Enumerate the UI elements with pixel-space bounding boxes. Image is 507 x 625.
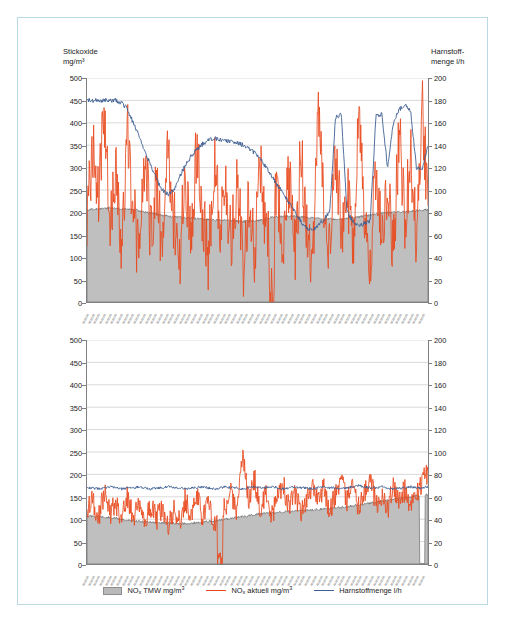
y-tick-left: 200 xyxy=(52,471,82,480)
y-tickmark-left xyxy=(82,168,86,169)
y-tickmark-right xyxy=(428,408,432,409)
y-tick-right: 60 xyxy=(434,231,464,240)
y-tickmark-right xyxy=(428,191,432,192)
y-tickmark-right xyxy=(428,453,432,454)
y-tickmark-left xyxy=(82,258,86,259)
y-tick-left: 150 xyxy=(52,493,82,502)
y-tickmark-right xyxy=(428,168,432,169)
y-tick-left: 250 xyxy=(52,186,82,195)
y-tick-left: 200 xyxy=(52,209,82,218)
y-tickmark-right xyxy=(428,281,432,282)
x-axis-labels: 00.00.0000.00.0000.00.0000.00.0000.00.00… xyxy=(86,304,428,328)
y-tickmark-right xyxy=(428,475,432,476)
y-tick-right: 120 xyxy=(434,164,464,173)
y-tickmark-left xyxy=(82,475,86,476)
chart-top: 5004504003503002502001501005002001801601… xyxy=(86,78,428,303)
y-tickmark-left xyxy=(82,498,86,499)
y-tick-right: 40 xyxy=(434,254,464,263)
y-tick-right: 100 xyxy=(434,186,464,195)
y-tick-right: 40 xyxy=(434,516,464,525)
right-axis-title: Harnstoff- menge l/h xyxy=(431,47,464,67)
y-tick-right: 200 xyxy=(434,74,464,83)
y-tick-right: 0 xyxy=(434,561,464,570)
y-tick-left: 400 xyxy=(52,381,82,390)
y-tick-left: 450 xyxy=(52,358,82,367)
y-tickmark-left xyxy=(82,236,86,237)
y-tick-left: 100 xyxy=(52,254,82,263)
y-tick-left: 150 xyxy=(52,231,82,240)
y-tickmark-left xyxy=(82,453,86,454)
y-tick-right: 160 xyxy=(434,381,464,390)
legend-label: Harnstoffmenge l/h xyxy=(339,586,401,595)
y-tick-right: 80 xyxy=(434,209,464,218)
y-tick-right: 120 xyxy=(434,426,464,435)
y-tickmark-right xyxy=(428,340,432,341)
y-tickmark-left xyxy=(82,78,86,79)
y-tick-left: 300 xyxy=(52,164,82,173)
y-tickmark-right xyxy=(428,565,432,566)
legend-line-swatch-icon xyxy=(314,590,334,591)
y-tick-left: 100 xyxy=(52,516,82,525)
y-tickmark-right xyxy=(428,498,432,499)
chart-top-canvas xyxy=(87,78,428,302)
y-tick-left: 50 xyxy=(52,538,82,547)
y-tick-right: 180 xyxy=(434,96,464,105)
y-tickmark-right xyxy=(428,258,432,259)
y-tickmark-right xyxy=(428,303,432,304)
y-tickmark-right xyxy=(428,543,432,544)
legend-item[interactable]: NOx aktuell mg/m3 xyxy=(206,586,292,595)
y-tick-right: 0 xyxy=(434,299,464,308)
legend-label: NOx aktuell mg/m3 xyxy=(231,586,292,595)
y-tick-right: 100 xyxy=(434,448,464,457)
y-tickmark-left xyxy=(82,101,86,102)
y-tickmark-left xyxy=(82,385,86,386)
y-tickmark-left xyxy=(82,213,86,214)
y-tick-left: 400 xyxy=(52,119,82,128)
chart-bottom-plot xyxy=(86,340,428,565)
y-tickmark-left xyxy=(82,191,86,192)
y-tick-right: 20 xyxy=(434,538,464,547)
y-tickmark-right xyxy=(428,385,432,386)
legend-area-swatch-icon xyxy=(103,587,122,595)
y-tickmark-left xyxy=(82,340,86,341)
y-tickmark-right xyxy=(428,123,432,124)
y-tickmark-left xyxy=(82,430,86,431)
y-tickmark-right xyxy=(428,101,432,102)
y-tickmark-left xyxy=(82,123,86,124)
y-tick-right: 20 xyxy=(434,276,464,285)
y-tick-right: 160 xyxy=(434,119,464,128)
y-tickmark-left xyxy=(82,281,86,282)
chart-bottom-canvas xyxy=(87,340,428,564)
y-tick-right: 60 xyxy=(434,493,464,502)
y-tick-right: 200 xyxy=(434,336,464,345)
left-axis-title: Stickoxide mg/m³ xyxy=(63,47,98,67)
y-tickmark-right xyxy=(428,78,432,79)
y-tick-left: 300 xyxy=(52,426,82,435)
y-tickmark-left xyxy=(82,363,86,364)
page-frame: Stickoxide mg/m³ Harnstoff- menge l/h 50… xyxy=(17,17,488,605)
y-tickmark-right xyxy=(428,363,432,364)
y-tick-left: 350 xyxy=(52,403,82,412)
legend-item[interactable]: NOx TMW mg/m3 xyxy=(103,586,184,595)
y-tick-left: 250 xyxy=(52,448,82,457)
y-tickmark-left xyxy=(82,146,86,147)
legend-label: NOx TMW mg/m3 xyxy=(127,586,184,595)
y-tick-right: 80 xyxy=(434,471,464,480)
chart-legend: NOx TMW mg/m3NOx aktuell mg/m3Harnstoffm… xyxy=(18,586,487,595)
y-tick-left: 350 xyxy=(52,141,82,150)
y-tick-right: 140 xyxy=(434,403,464,412)
y-tickmark-left xyxy=(82,543,86,544)
y-tickmark-right xyxy=(428,236,432,237)
y-tick-left: 500 xyxy=(52,74,82,83)
y-tick-left: 50 xyxy=(52,276,82,285)
y-tick-left: 450 xyxy=(52,96,82,105)
y-tick-right: 180 xyxy=(434,358,464,367)
y-tickmark-right xyxy=(428,213,432,214)
legend-item[interactable]: Harnstoffmenge l/h xyxy=(314,586,401,595)
y-tick-left: 500 xyxy=(52,336,82,345)
y-tick-left: 0 xyxy=(52,561,82,570)
y-tick-left: 0 xyxy=(52,299,82,308)
chart-bottom: 5004504003503002502001501005002001801601… xyxy=(86,340,428,565)
y-tickmark-right xyxy=(428,146,432,147)
chart-top-plot xyxy=(86,78,428,303)
